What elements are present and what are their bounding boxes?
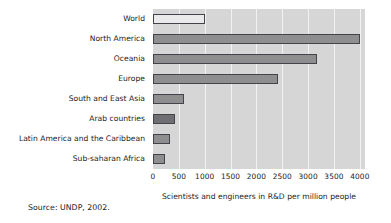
gridline bbox=[256, 9, 257, 169]
gridline bbox=[231, 9, 232, 169]
category-label: Europe bbox=[0, 74, 145, 83]
category-label: South and East Asia bbox=[0, 94, 145, 103]
bar bbox=[153, 14, 205, 24]
x-tick-label: 3000 bbox=[299, 172, 318, 181]
gridline bbox=[282, 9, 283, 169]
chart-figure: WorldNorth AmericaOceaniaEuropeSouth and… bbox=[0, 0, 391, 223]
bar bbox=[153, 54, 317, 64]
x-tick-label: 2000 bbox=[247, 172, 266, 181]
gridline bbox=[179, 9, 180, 169]
category-axis-labels: WorldNorth AmericaOceaniaEuropeSouth and… bbox=[0, 9, 149, 169]
gridline bbox=[360, 9, 361, 169]
bar bbox=[153, 134, 170, 144]
bar bbox=[153, 154, 165, 164]
x-axis-tick-labels: 05001000150020002500300035004000 bbox=[153, 172, 383, 184]
x-tick-label: 2500 bbox=[273, 172, 292, 181]
x-tick-label: 0 bbox=[151, 172, 156, 181]
category-label: World bbox=[0, 14, 145, 23]
gridline bbox=[308, 9, 309, 169]
source-note: Source: UNDP, 2002. bbox=[28, 203, 110, 212]
category-label: Latin America and the Caribbean bbox=[0, 134, 145, 143]
bar bbox=[153, 74, 278, 84]
x-tick-label: 3500 bbox=[324, 172, 343, 181]
plot-area bbox=[153, 9, 365, 169]
bar bbox=[153, 114, 175, 124]
category-label: Arab countries bbox=[0, 114, 145, 123]
bar bbox=[153, 34, 360, 44]
x-tick-label: 1500 bbox=[221, 172, 240, 181]
x-tick-label: 500 bbox=[172, 172, 186, 181]
gridline bbox=[334, 9, 335, 169]
gridline bbox=[205, 9, 206, 169]
category-label: Oceania bbox=[0, 54, 145, 63]
category-label: North America bbox=[0, 34, 145, 43]
bar bbox=[153, 94, 184, 104]
x-tick-label: 4000 bbox=[350, 172, 369, 181]
category-label: Sub-saharan Africa bbox=[0, 154, 145, 163]
x-tick-label: 1000 bbox=[195, 172, 214, 181]
x-axis-title: Scientists and engineers in R&D per mill… bbox=[153, 192, 365, 201]
